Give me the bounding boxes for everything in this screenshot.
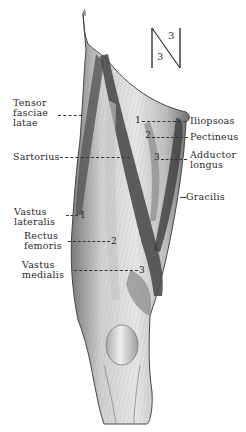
label-gracilis: Gracilis	[186, 192, 225, 202]
leader-sartorius	[60, 157, 130, 158]
label-rectus-femoris: Rectus femoris	[24, 231, 62, 251]
leader-vastus-lateralis	[66, 215, 78, 216]
number-rectus-femoris: 2	[111, 237, 117, 246]
leader-rectus-femoris	[68, 241, 110, 242]
patella	[106, 325, 138, 365]
leader-vastus-medialis	[74, 270, 138, 271]
leader-pectineus	[152, 137, 188, 138]
number-iliopsoas: 1	[135, 116, 141, 125]
orientation-number-bottom: 3	[157, 51, 163, 62]
leader-iliopsoas	[142, 121, 186, 122]
leader-tensor-fasciae-latae	[58, 115, 82, 116]
number-vastus-medialis: 3	[139, 266, 145, 275]
label-sartorius: Sartorius	[13, 152, 60, 162]
label-pectineus: Pectineus	[190, 132, 238, 142]
number-pectineus: 2	[145, 131, 151, 140]
label-vastus-lateralis: Vastus lateralis	[14, 207, 55, 227]
number-vastus-lateralis: 1	[80, 211, 86, 220]
leader-adductor-longus	[161, 159, 187, 160]
label-adductor-longus: Adductor longus	[190, 150, 236, 170]
orientation-number-top: 3	[168, 30, 174, 41]
anatomy-figure: 3 3 Tensor fasciae latae Sartorius Vastu…	[0, 0, 246, 432]
orientation-marker-icon	[152, 28, 180, 68]
label-vastus-medialis: Vastus medialis	[22, 260, 64, 280]
number-adductor-longus: 3	[154, 153, 160, 162]
label-tensor-fasciae-latae: Tensor fasciae latae	[13, 98, 48, 128]
label-iliopsoas: Iliopsoas	[190, 116, 235, 126]
